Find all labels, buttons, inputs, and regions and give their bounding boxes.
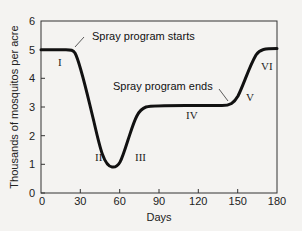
spray-start-annotation: Spray program starts	[92, 30, 195, 42]
y-tick-labels: 0 1 2 3 4 5 6	[29, 15, 35, 199]
x-axis-label: Days	[146, 211, 172, 223]
x-tick-labels: 0 30 60 90 120 150 180	[39, 195, 286, 207]
phase-label-vi: VI	[261, 60, 273, 72]
end-leader-line	[219, 89, 228, 101]
y-tick-0: 0	[29, 187, 35, 199]
y-axis-label: Thousands of mosquitos per acre	[8, 25, 20, 188]
y-tick-3: 3	[29, 101, 35, 113]
y-tick-4: 4	[29, 72, 35, 84]
spray-end-annotation: Spray program ends	[113, 80, 213, 92]
y-tick-6: 6	[29, 15, 35, 27]
y-tick-2: 2	[29, 130, 35, 142]
y-axis	[41, 50, 45, 193]
population-curve	[41, 49, 277, 168]
x-tick-120: 120	[189, 195, 207, 207]
phase-label-iii: III	[135, 151, 146, 163]
phase-label-iv: IV	[186, 109, 198, 121]
y-tick-1: 1	[29, 158, 35, 170]
x-tick-180: 180	[268, 195, 286, 207]
start-leader-line	[75, 37, 84, 47]
x-tick-0: 0	[39, 195, 45, 207]
phase-label-ii: II	[95, 151, 103, 163]
x-axis	[80, 189, 237, 193]
y-tick-5: 5	[29, 44, 35, 56]
x-tick-60: 60	[114, 195, 126, 207]
x-tick-90: 90	[153, 195, 165, 207]
x-tick-150: 150	[229, 195, 247, 207]
phase-label-v: V	[246, 91, 254, 103]
chart: 0 1 2 3 4 5 6 0 30 60 90 120 150 180 Day…	[0, 0, 302, 231]
x-tick-30: 30	[74, 195, 86, 207]
phase-label-i: I	[58, 56, 62, 68]
